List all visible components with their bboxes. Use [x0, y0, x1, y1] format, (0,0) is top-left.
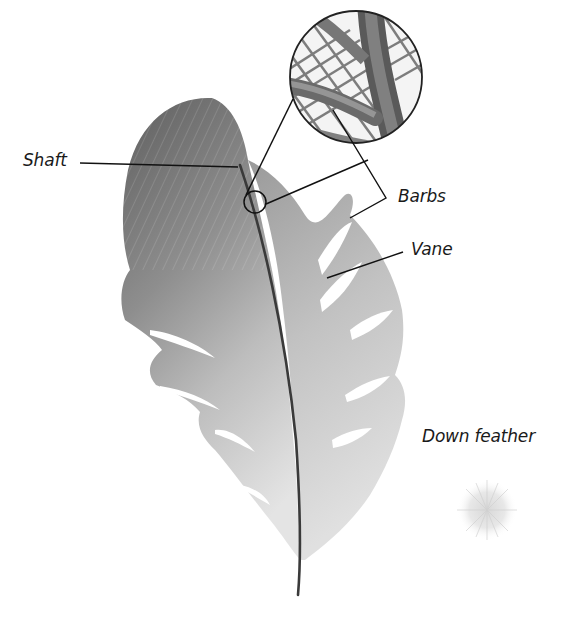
label-down-feather: Down feather — [422, 426, 535, 446]
barbs-magnified-detail — [250, 0, 450, 180]
label-vane: Vane — [411, 239, 452, 259]
down-feather-illustration — [457, 480, 517, 540]
feather-diagram: Shaft Barbs Vane Down feather — [0, 0, 581, 620]
label-barbs: Barbs — [398, 186, 446, 206]
feather-illustration — [0, 0, 581, 620]
feather-left-vane — [121, 98, 300, 560]
label-shaft: Shaft — [23, 150, 67, 170]
